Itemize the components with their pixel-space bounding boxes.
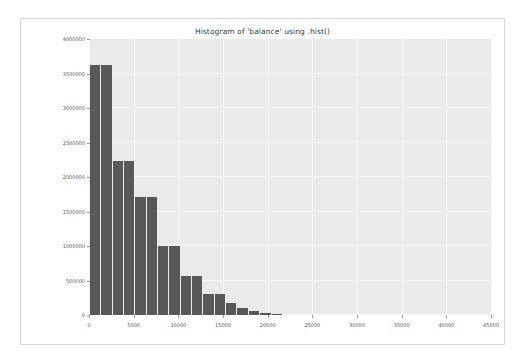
histogram-bar (157, 246, 168, 315)
y-axis-tick-labels: 0500000100000015000002000000250000030000… (49, 39, 85, 315)
histogram-bar (202, 294, 213, 315)
y-tick-mark (87, 74, 90, 75)
x-tick-mark (89, 315, 90, 318)
x-tick-mark (446, 315, 447, 318)
y-tick-label: 1500000 (63, 209, 85, 214)
x-tick-mark (223, 315, 224, 318)
x-axis-tick-labels: 0500010000150002000025000300003500040000… (89, 323, 491, 333)
histogram-bar (191, 276, 202, 315)
histogram-bar (236, 308, 247, 315)
x-tick-label: 0 (87, 323, 90, 328)
y-tick-mark (87, 177, 90, 178)
x-tick-label: 25000 (304, 323, 320, 328)
histogram-bar (271, 314, 282, 315)
x-tick-label: 10000 (170, 323, 186, 328)
y-tick-mark (87, 143, 90, 144)
histogram-bar (146, 197, 157, 315)
figure-frame: Histogram of 'balance' using .hist() 050… (20, 18, 505, 345)
y-tick-label: 2500000 (63, 140, 85, 145)
chart-title: Histogram of 'balance' using .hist() (21, 27, 504, 36)
histogram-bar (100, 65, 111, 315)
x-tick-mark (134, 315, 135, 318)
x-tick-mark (178, 315, 179, 318)
histogram-bars (89, 39, 491, 315)
y-tick-mark (87, 246, 90, 247)
x-tick-label: 5000 (127, 323, 140, 328)
x-tick-label: 40000 (438, 323, 454, 328)
y-tick-mark (87, 281, 90, 282)
y-tick-label: 3500000 (63, 71, 85, 76)
histogram-bar (214, 294, 225, 315)
histogram-bar (259, 313, 270, 315)
y-tick-mark (87, 39, 90, 40)
histogram-bar (134, 197, 145, 315)
x-tick-mark (402, 315, 403, 318)
plot-area (89, 39, 491, 315)
histogram-bar (168, 246, 179, 315)
histogram-bar (112, 161, 123, 315)
histogram-bar (123, 161, 134, 315)
x-tick-mark (268, 315, 269, 318)
y-tick-label: 3000000 (63, 106, 85, 111)
x-tick-label: 35000 (394, 323, 410, 328)
y-tick-label: 0 (82, 313, 85, 318)
x-tick-label: 20000 (260, 323, 276, 328)
x-tick-label: 15000 (215, 323, 231, 328)
histogram-bar (180, 276, 191, 315)
y-tick-label: 1000000 (63, 244, 85, 249)
x-tick-label: 30000 (349, 323, 365, 328)
y-tick-label: 2000000 (63, 175, 85, 180)
y-tick-mark (87, 212, 90, 213)
y-tick-mark (87, 108, 90, 109)
y-tick-label: 500000 (66, 278, 85, 283)
x-tick-mark (312, 315, 313, 318)
x-tick-label: 45000 (483, 323, 499, 328)
x-tick-mark (357, 315, 358, 318)
y-tick-label: 4000000 (63, 37, 85, 42)
histogram-bar (225, 303, 236, 315)
x-tick-mark (491, 315, 492, 318)
histogram-bar (248, 311, 259, 315)
histogram-bar (89, 65, 100, 315)
